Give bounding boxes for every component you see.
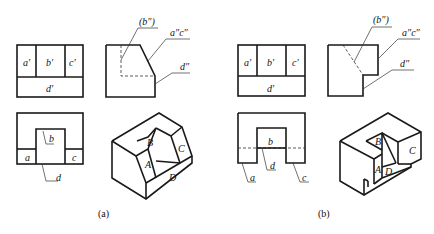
panel-a-front-view: a′ b′ c′ d′ [17, 45, 83, 97]
label-d: d [56, 172, 62, 183]
panel-a-side-view: (b″) a″c″ d″ [106, 16, 190, 97]
label-c-prime: c′ [292, 57, 299, 68]
label-C: C [178, 143, 185, 154]
label-b-prime: b′ [267, 57, 275, 68]
label-C: C [409, 145, 416, 156]
label-c-prime: c′ [69, 57, 76, 68]
label-B: B [375, 136, 381, 147]
panel-a-top-view: a b c d [17, 113, 83, 183]
label-ac-double-prime: a″c″ [170, 27, 189, 38]
label-a-prime: a′ [244, 57, 252, 68]
panel-b-front-view: a′ b′ c′ d′ [238, 45, 305, 96]
label-b: b [49, 133, 54, 144]
label-c: c [72, 152, 77, 163]
label-a: a [25, 152, 30, 163]
orthographic-projection-figure: a′ b′ c′ d′ (b″) a″c″ d″ a b c [0, 0, 434, 234]
label-d-double-prime: d″ [180, 61, 190, 72]
panel-b-caption: (b) [318, 208, 330, 220]
panel-b-top-view: b a d c [238, 113, 309, 183]
label-D: D [168, 172, 177, 183]
label-B: B [147, 137, 153, 148]
label-b-double-prime: (b″) [139, 16, 155, 28]
panel-b-side-view: (b″) a″c″ d″ [328, 14, 421, 96]
panel-a: a′ b′ c′ d′ (b″) a″c″ d″ a b c [17, 16, 192, 220]
label-ac-double-prime: a″c″ [402, 27, 421, 38]
label-D: D [384, 166, 393, 177]
label-d-double-prime: d″ [400, 58, 410, 69]
label-b: b [268, 136, 273, 147]
panel-a-isometric: B A C D [112, 113, 192, 199]
label-A: A [374, 164, 382, 175]
label-b-double-prime: (b″) [373, 14, 389, 26]
label-d-prime: d′ [46, 83, 54, 94]
panel-b: a′ b′ c′ d′ (b″) a″c″ d″ b a d [238, 14, 421, 220]
label-d: d [270, 160, 276, 171]
panel-a-caption: (a) [98, 208, 109, 220]
label-a: a [250, 172, 255, 183]
label-d-prime: d′ [267, 83, 275, 94]
label-b-prime: b′ [46, 57, 54, 68]
label-A: A [144, 159, 152, 170]
panel-b-isometric: B A C D [340, 113, 421, 195]
label-c: c [302, 172, 307, 183]
label-a-prime: a′ [23, 57, 31, 68]
